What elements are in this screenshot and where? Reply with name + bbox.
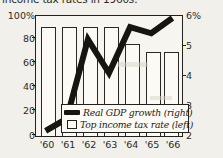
chart-caption: income tax rates in 1960s.	[2, 0, 202, 5]
legend-item-gdp-growth: Real GDP growth (right)	[64, 106, 186, 118]
y-axis-left-tick-100: 100%	[8, 10, 35, 21]
chart-legend: Real GDP growth (right) Top income tax r…	[61, 104, 189, 133]
x-axis-tick-65: '65	[141, 139, 163, 150]
x-axis-tick-61: '61	[57, 139, 79, 150]
y-axis-right-tick-6: 6%	[186, 10, 201, 21]
y-axis-right-tick-5: 5	[186, 40, 192, 51]
x-axis-tick-60: '60	[36, 139, 58, 150]
x-axis-tick-62: '62	[78, 139, 100, 150]
y-axis-right-tickmark	[183, 75, 186, 76]
scan-speckle	[118, 62, 148, 67]
y-axis-left-tick-20: 20	[23, 105, 35, 116]
x-axis-tick-66: '66	[162, 139, 184, 150]
y-axis-left-tick-80: 80	[23, 33, 35, 44]
legend-label-tax-rate: Top income tax rate (left)	[80, 119, 193, 130]
x-axis-tick-63: '63	[99, 139, 121, 150]
scan-speckle	[150, 96, 172, 100]
y-axis-left-tick-40: 40	[23, 81, 35, 92]
y-axis-left-tick-60: 60	[23, 57, 35, 68]
legend-label-gdp-growth: Real GDP growth (right)	[83, 107, 192, 118]
y-axis-right-tickmark	[183, 45, 186, 46]
legend-item-tax-rate: Top income tax rate (left)	[64, 118, 186, 130]
line-swatch-icon	[64, 110, 80, 115]
x-axis-tick-64: '64	[120, 139, 142, 150]
box-swatch-icon	[67, 120, 77, 129]
chart-figure: income tax rates in 1960s. 100% 80 60 40…	[0, 0, 223, 158]
y-axis-right-tick-4: 4	[186, 70, 192, 81]
